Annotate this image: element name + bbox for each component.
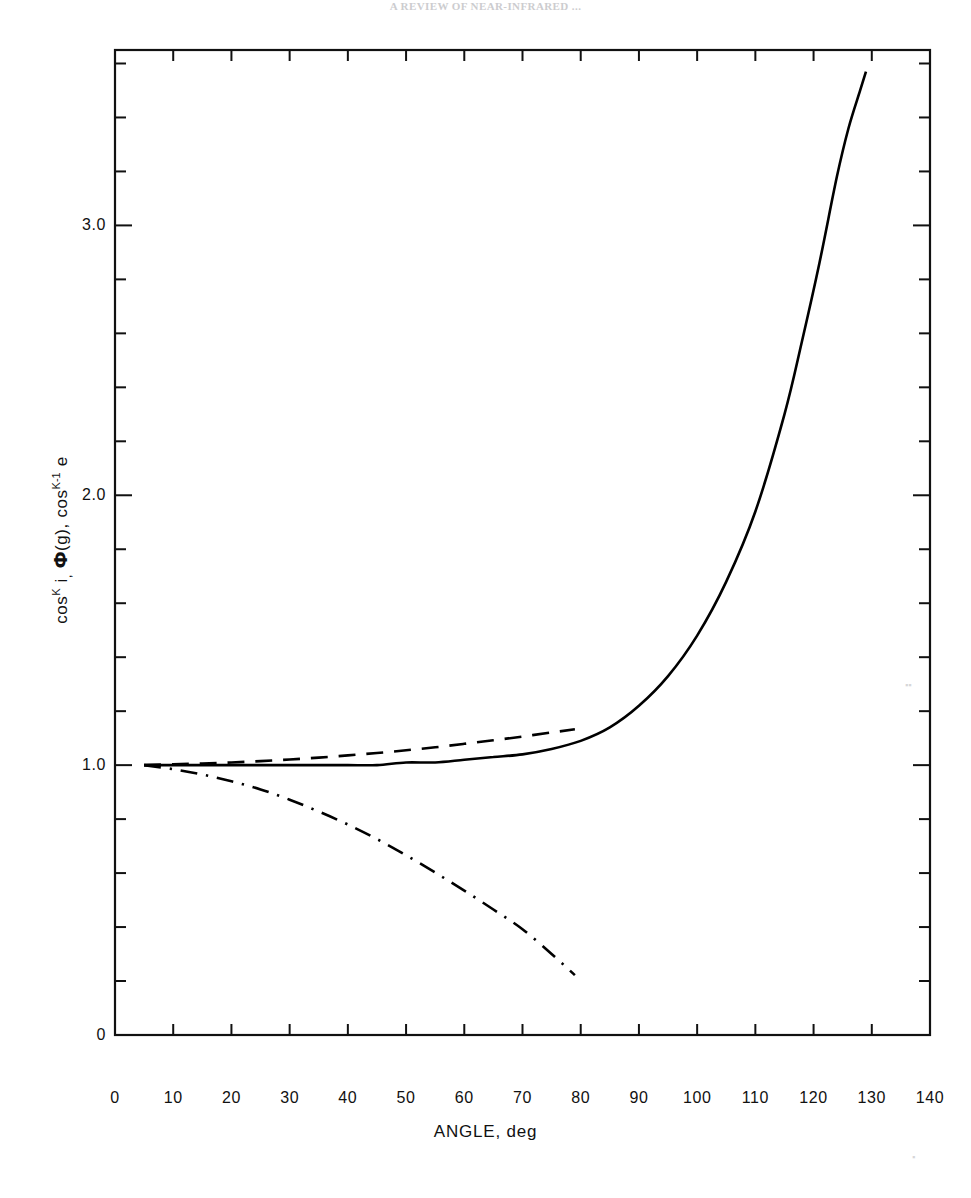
x-tick-label: 0 [110, 1089, 120, 1107]
data-series-1-solid [144, 72, 866, 766]
y-tick-label: 0 [56, 1026, 106, 1044]
x-tick-label: 10 [164, 1089, 183, 1107]
x-tick-label: 50 [397, 1089, 416, 1107]
scan-speck-right: ▪▪ [905, 680, 911, 690]
data-series-3-dashdot [144, 765, 575, 975]
x-tick-label: 30 [280, 1089, 299, 1107]
x-tick-label: 60 [455, 1089, 474, 1107]
plot-svg [0, 0, 971, 1198]
plot-frame-rect [115, 50, 930, 1035]
y-axis-ticks-right [913, 63, 930, 1035]
x-tick-label: 80 [571, 1089, 590, 1107]
x-axis-title: ANGLE, deg [0, 1122, 971, 1142]
y-axis-ticks-left [115, 63, 132, 1035]
data-series-layer [144, 72, 866, 976]
x-tick-label: 40 [338, 1089, 357, 1107]
x-tick-label: 20 [222, 1089, 241, 1107]
x-tick-label: 100 [683, 1089, 712, 1107]
x-tick-label: 130 [858, 1089, 887, 1107]
plot-frame [115, 50, 930, 1035]
y-tick-label: 3.0 [56, 216, 106, 234]
x-axis-ticks-bottom [115, 1024, 930, 1035]
figure-plot: cosKi,Ф(g),cosK-1e ANGLE, deg 0102030405… [0, 0, 971, 1198]
y-tick-label: 2.0 [56, 486, 106, 504]
x-tick-label: 140 [916, 1089, 945, 1107]
x-axis-ticks-top [115, 50, 930, 61]
y-tick-label: 1.0 [56, 756, 106, 774]
data-series-2-dashed [144, 729, 575, 765]
x-tick-label: 110 [742, 1089, 769, 1107]
x-tick-label: 120 [799, 1089, 828, 1107]
x-tick-label: 90 [629, 1089, 648, 1107]
x-tick-label: 70 [513, 1089, 532, 1107]
scan-speck-corner: ▪ [912, 1152, 915, 1162]
